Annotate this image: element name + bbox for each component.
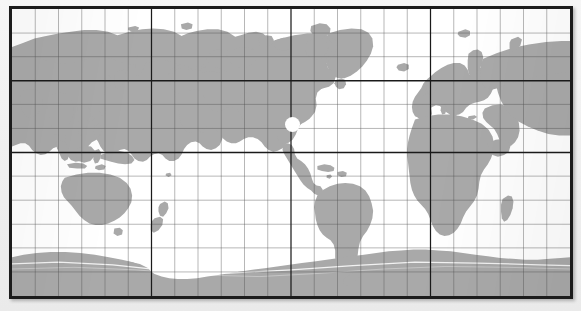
- map-svg: [12, 9, 570, 296]
- location-dot[interactable]: [285, 117, 300, 132]
- page-canvas: [0, 0, 581, 311]
- world-map-figure: [9, 6, 573, 299]
